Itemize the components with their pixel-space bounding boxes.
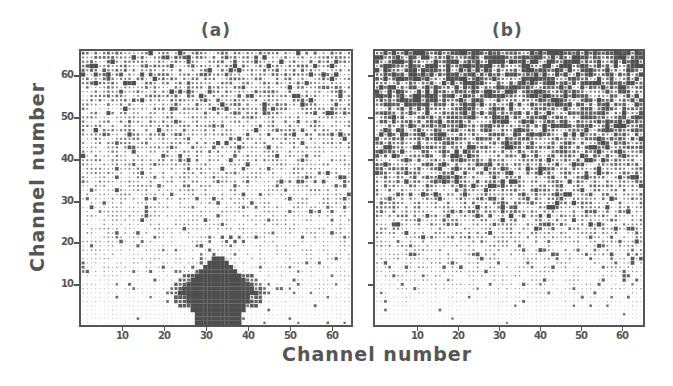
y-tick: [368, 201, 373, 203]
y-tick-label: 60: [53, 69, 73, 80]
y-tick: [368, 117, 373, 119]
x-tick-label: 60: [326, 330, 338, 341]
y-tick: [368, 75, 373, 77]
y-tick-label: 30: [53, 195, 73, 206]
y-tick: [368, 242, 373, 244]
x-tick-label: 60: [616, 330, 628, 341]
y-tick: [74, 117, 79, 119]
y-tick: [368, 159, 373, 161]
y-axis-label: Channel number: [26, 82, 48, 272]
x-tick-label: 20: [158, 330, 170, 341]
panel-b-plot: [373, 49, 645, 327]
x-tick-label: 50: [575, 330, 587, 341]
y-tick-label: 50: [53, 111, 73, 122]
x-tick-label: 40: [242, 330, 254, 341]
x-tick-label: 20: [452, 330, 464, 341]
panel-b-title: (b): [492, 20, 523, 40]
y-tick-label: 10: [53, 278, 73, 289]
y-tick: [74, 159, 79, 161]
x-axis-label: Channel number: [282, 343, 472, 365]
x-tick-label: 10: [116, 330, 128, 341]
panel-a-title: (a): [201, 20, 231, 40]
x-tick-label: 10: [411, 330, 423, 341]
y-tick: [74, 201, 79, 203]
y-tick: [74, 242, 79, 244]
panel-a-plot: [79, 49, 353, 327]
y-tick: [74, 284, 79, 286]
x-tick-label: 30: [493, 330, 505, 341]
y-tick-label: 40: [53, 153, 73, 164]
x-tick-label: 50: [284, 330, 296, 341]
panel-b-dot-matrix: [375, 51, 643, 325]
y-tick-label: 20: [53, 236, 73, 247]
panel-a-dot-matrix: [81, 51, 351, 325]
x-tick-label: 30: [200, 330, 212, 341]
y-tick: [368, 284, 373, 286]
x-tick-label: 40: [534, 330, 546, 341]
y-tick: [74, 75, 79, 77]
